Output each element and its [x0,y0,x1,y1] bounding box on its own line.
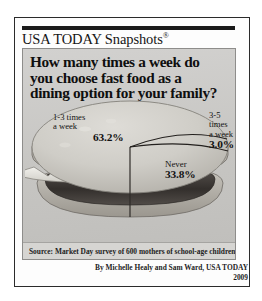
label-1-3-times-a-week: 1-3 times a week 63.2% [53,113,85,132]
label-3-5-times-a-week: 3-5 times a week 3.0% [209,111,235,150]
masthead-rule [22,26,235,30]
label-line-2: a week [53,122,85,131]
question-line-2: you choose fast food as a [30,70,230,86]
source-text: Source: Market Day survey of 600 mothers… [29,247,235,256]
registered-mark-icon: ® [163,31,169,40]
masthead-brand: USA TODAY Snapshots [22,31,163,47]
usa-today-snapshot: USA TODAY Snapshots® How many times a we… [0,0,262,301]
label-never: Never 33.8% [165,159,195,179]
percent-never: 33.8% [165,169,195,179]
byline-credit: By Michelle Healy and Sam Ward, USA TODA… [95,263,248,272]
byline-year: 2009 [95,273,248,283]
question-headline: How many times a week do you choose fast… [30,54,230,101]
masthead-title: USA TODAY Snapshots® [22,31,237,47]
byline: By Michelle Healy and Sam Ward, USA TODA… [95,263,248,282]
percent-1-3-times: 63.2% [93,133,123,142]
label-line-1: 3-5 times [209,111,235,130]
question-line-1: How many times a week do [30,54,230,70]
percent-3-5-times: 3.0% [209,140,235,149]
chart-panel: How many times a week do you choose fast… [22,48,236,260]
source-strip: Source: Market Day survey of 600 mothers… [23,242,235,259]
